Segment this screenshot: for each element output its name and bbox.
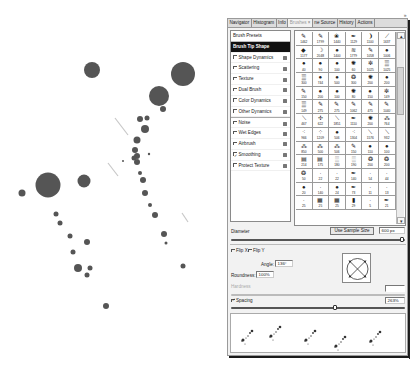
lock-icon[interactable] bbox=[283, 78, 287, 82]
brush-preset[interactable]: ❂200 bbox=[379, 155, 396, 169]
brush-preset[interactable]: ❩1100 bbox=[362, 32, 379, 46]
use-sample-size-button[interactable]: Use Sample Size bbox=[330, 227, 374, 235]
brush-preset[interactable]: ✎1040 bbox=[379, 100, 396, 114]
brush-preset[interactable]: ⟋1637 bbox=[379, 32, 396, 46]
settings-item-texture[interactable]: Texture bbox=[231, 74, 290, 85]
brush-preset[interactable]: ▦25 bbox=[313, 196, 330, 210]
brush-preset[interactable]: ●20 bbox=[296, 183, 313, 197]
brush-preset[interactable]: ✎475 bbox=[362, 100, 379, 114]
brush-preset[interactable]: ✎275 bbox=[329, 100, 346, 114]
brush-preset[interactable]: ✒21 bbox=[379, 196, 396, 210]
checkbox[interactable] bbox=[233, 152, 237, 156]
brush-preset[interactable]: ●200 bbox=[379, 73, 396, 87]
brush-preset[interactable]: ◆1177 bbox=[296, 46, 313, 60]
settings-item-scattering[interactable]: Scattering bbox=[231, 63, 290, 74]
brush-preset[interactable]: ❂300 bbox=[346, 73, 363, 87]
tab-brushes[interactable]: Brushes× bbox=[288, 19, 313, 27]
brush-preset[interactable]: ✎1062 bbox=[346, 100, 363, 114]
brush-preset[interactable]: ●1006 bbox=[379, 46, 396, 60]
brush-preset[interactable]: ░190 bbox=[346, 155, 363, 169]
flip-x-checkbox[interactable]: Flip X bbox=[231, 248, 248, 253]
brush-preset[interactable]: ✒73 bbox=[346, 183, 363, 197]
brush-preset[interactable]: ❀1440 bbox=[329, 32, 346, 46]
settings-item-color-dynamics[interactable]: Color Dynamics bbox=[231, 96, 290, 107]
brush-preset[interactable]: ·13 bbox=[379, 183, 396, 197]
brush-preset[interactable]: ⟍467 bbox=[296, 114, 313, 128]
lock-icon[interactable] bbox=[283, 99, 287, 103]
brush-preset[interactable]: ●100 bbox=[379, 142, 396, 156]
brush-preset[interactable]: ▤214 bbox=[296, 155, 313, 169]
brush-preset[interactable]: ●200 bbox=[313, 87, 330, 101]
flip-y-checkbox-box[interactable] bbox=[248, 249, 252, 253]
brush-grid-scrollbar[interactable]: ▴ ▾ bbox=[396, 32, 404, 224]
brush-preset[interactable]: ●100 bbox=[329, 87, 346, 101]
tab-histogram[interactable]: Histogram bbox=[252, 19, 277, 27]
brush-preset[interactable]: ✎1462 bbox=[296, 32, 313, 46]
brush-preset[interactable]: ⁘1209 bbox=[313, 128, 330, 142]
settings-item-shape-dynamics[interactable]: Shape Dynamics bbox=[231, 53, 290, 64]
brush-preset[interactable]: ✺200 bbox=[362, 73, 379, 87]
brush-preset[interactable]: ▤175 bbox=[313, 155, 330, 169]
settings-item-dual-brush[interactable]: Dual Brush bbox=[231, 85, 290, 96]
checkbox[interactable] bbox=[233, 109, 237, 113]
lock-icon[interactable] bbox=[283, 110, 287, 114]
brush-preset[interactable]: ✎150 bbox=[296, 87, 313, 101]
brush-preset[interactable]: ●1400 bbox=[329, 46, 346, 60]
brush-preset[interactable]: ⁖1304 bbox=[346, 128, 363, 142]
lock-icon[interactable] bbox=[283, 164, 287, 168]
brush-preset[interactable]: ▒1025 bbox=[379, 59, 396, 73]
checkbox[interactable] bbox=[233, 88, 237, 92]
hardness-field[interactable] bbox=[385, 285, 405, 292]
settings-item-airbrush[interactable]: Airbrush bbox=[231, 139, 290, 150]
settings-item-wet-edges[interactable]: Wet Edges bbox=[231, 128, 290, 139]
brush-preset[interactable]: ✎1799 bbox=[313, 32, 330, 46]
brush-preset[interactable]: ●100 bbox=[329, 59, 346, 73]
brush-preset[interactable]: ✼149 bbox=[379, 87, 396, 101]
brush-preset[interactable]: ·140 bbox=[313, 183, 330, 197]
checkbox[interactable] bbox=[233, 142, 237, 146]
settings-item-smoothing[interactable]: Smoothing bbox=[231, 150, 290, 161]
hardness-slider[interactable] bbox=[231, 294, 405, 296]
tab-info[interactable]: Info bbox=[277, 19, 289, 27]
settings-item-brush-tip-shape[interactable]: Brush Tip Shape bbox=[231, 42, 290, 53]
roundness-field[interactable]: 100% bbox=[256, 271, 274, 278]
lock-icon[interactable] bbox=[283, 142, 287, 146]
brush-preset[interactable]: ⟍932 bbox=[379, 128, 396, 142]
brush-preset[interactable]: ✢622 bbox=[313, 114, 330, 128]
lock-icon[interactable] bbox=[283, 132, 287, 136]
brush-preset[interactable]: ✎1058 bbox=[362, 46, 379, 60]
checkbox[interactable] bbox=[233, 163, 237, 167]
brush-preset[interactable]: ●90 bbox=[313, 59, 330, 73]
brush-preset[interactable]: ⁂764 bbox=[379, 114, 396, 128]
angle-field[interactable]: 136° bbox=[275, 260, 293, 267]
tab-history[interactable]: History bbox=[338, 19, 356, 27]
brush-preset[interactable]: ⁂850 bbox=[296, 142, 313, 156]
brush-preset[interactable]: ✒1110 bbox=[346, 114, 363, 128]
brush-preset[interactable]: ✒1129 bbox=[346, 32, 363, 46]
spacing-slider[interactable] bbox=[231, 307, 405, 309]
brush-preset[interactable]: ⟍1851 bbox=[329, 114, 346, 128]
brush-preset[interactable]: ·11 bbox=[362, 183, 379, 197]
brush-preset[interactable]: ❂50 bbox=[296, 169, 313, 183]
checkbox[interactable] bbox=[233, 131, 237, 135]
brush-preset[interactable]: ✼1025 bbox=[362, 59, 379, 73]
brush-preset[interactable]: ✺60 bbox=[346, 59, 363, 73]
checkbox[interactable] bbox=[233, 98, 237, 102]
brush-preset[interactable]: ⁂506 bbox=[329, 142, 346, 156]
brush-preset[interactable]: ☽2048 bbox=[313, 46, 330, 60]
brush-preset[interactable]: ●500 bbox=[329, 73, 346, 87]
brush-preset[interactable]: ▒300 bbox=[296, 73, 313, 87]
diameter-slider[interactable] bbox=[231, 239, 405, 241]
scroll-up-arrow-icon[interactable]: ▴ bbox=[397, 32, 405, 39]
settings-item-brush-presets[interactable]: Brush Presets bbox=[231, 31, 290, 42]
settings-item-noise[interactable]: Noise bbox=[231, 117, 290, 128]
tab-navigator[interactable]: Navigator bbox=[228, 19, 252, 27]
spacing-field[interactable]: 263% bbox=[385, 297, 405, 304]
flip-y-checkbox[interactable]: Flip Y bbox=[248, 248, 265, 253]
brush-preset[interactable]: ⟍1576 bbox=[362, 128, 379, 142]
flip-x-checkbox-box[interactable] bbox=[231, 249, 235, 253]
brush-preset[interactable]: ●24 bbox=[329, 183, 346, 197]
scroll-down-arrow-icon[interactable]: ▾ bbox=[397, 217, 405, 224]
checkbox[interactable] bbox=[233, 55, 237, 59]
brush-preset[interactable]: ✺80 bbox=[346, 87, 363, 101]
